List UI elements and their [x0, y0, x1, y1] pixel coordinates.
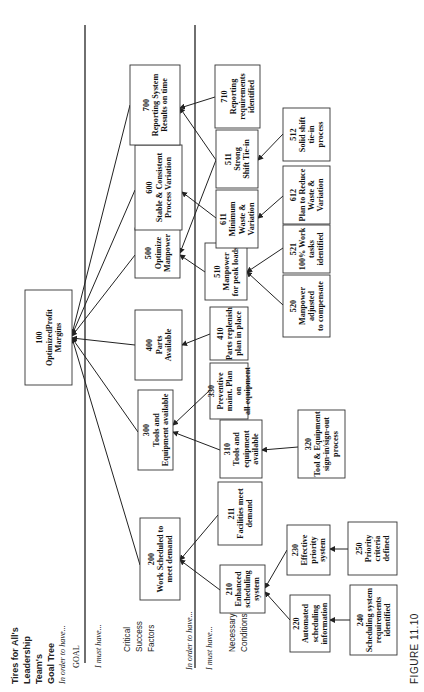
node-label-line: Preventive: [216, 372, 225, 409]
connector-510-to-500: [180, 255, 205, 272]
node-label-line: Reporting System: [151, 74, 160, 137]
node-label-line: criteria: [373, 536, 382, 562]
connector-511-to-700: [180, 108, 216, 160]
node-label-line: demand: [245, 499, 254, 528]
node-label-line: scheduling: [243, 569, 252, 607]
node-label-line: 511: [224, 153, 233, 165]
node-512: 512Solid shifttie-inprocess: [283, 108, 330, 161]
node-label-line: 100% Work: [298, 227, 307, 270]
connector-220-to-210: [265, 592, 290, 620]
connector-512-to-511: [258, 134, 283, 160]
connector-400-to-100: [72, 338, 135, 345]
node-521: 521100% Worktasksidentified: [283, 225, 330, 273]
node-label-line: 250: [355, 542, 364, 554]
i-must-have-2: I must have...: [205, 626, 214, 671]
node-label-line: 612: [289, 189, 298, 201]
node-label-line: information: [320, 602, 329, 644]
node-label-line: maint. Plan: [225, 370, 234, 411]
node-label-line: Enhanced: [234, 571, 243, 606]
node-label-line: to compensate: [316, 281, 325, 331]
node-label-line: 611: [219, 213, 228, 225]
node-label-line: process: [316, 122, 325, 148]
node-label-line: 330: [207, 385, 216, 397]
connector-210-to-200: [180, 560, 220, 590]
node-label-line: Minimum: [228, 201, 237, 236]
node-label-line: sign-in/sign-out: [322, 417, 331, 471]
node-label-line: all equipment: [243, 367, 252, 415]
node-label-line: 200: [147, 553, 156, 565]
node-label-line: Parts: [155, 336, 164, 355]
connector-320-to-310: [262, 447, 298, 450]
goal-label: GOAL: [72, 645, 81, 668]
node-200: 200Work Scheduled tomeet demand: [140, 518, 180, 600]
node-label-line: Automated: [301, 604, 310, 644]
node-300: 300Tools andEquipment available: [138, 390, 173, 470]
connector-521-to-510: [247, 248, 283, 272]
node-label-line: Optimize: [154, 236, 163, 269]
node-label-line: 240: [356, 614, 365, 626]
node-400: 400PartsAvailable: [135, 310, 182, 380]
node-label-line: Tools and: [152, 413, 161, 447]
csf-label-3: Factors: [147, 625, 156, 652]
node-label-line: scheduling: [311, 604, 320, 642]
node-label-line: 512: [289, 128, 298, 140]
connector-310-to-300: [173, 432, 220, 450]
goal-tree-diagram: 100OptimizedProfitMargins200Work Schedul…: [0, 0, 424, 692]
node-710: 710Reportingrequirementsidentified: [215, 65, 260, 128]
node-220: 220Automatedschedulinginformation: [290, 595, 330, 652]
node-label-line: 100: [35, 331, 44, 343]
node-240: 240Scheduling systemrequirementsidentifi…: [350, 585, 397, 655]
node-611: 611MinimumWaste &Variation: [216, 190, 258, 248]
node-label-line: 230: [291, 544, 300, 556]
node-label-line: system: [252, 577, 261, 601]
in-order-to-have-2: In order to have...: [185, 611, 194, 671]
node-label-line: Facilities meet: [236, 488, 245, 539]
node-label-line: identified: [383, 603, 392, 637]
node-211: 211Facilities meetdemand: [218, 482, 262, 545]
node-label-line: plan in place: [234, 311, 243, 356]
node-label-line: priority: [309, 535, 318, 563]
connector-410-to-400: [182, 334, 210, 345]
node-label-line: identified: [316, 232, 325, 266]
connector-211-to-200: [180, 515, 218, 560]
node-label-line: Manpower: [163, 234, 172, 273]
node-label-line: 310: [223, 443, 232, 455]
connector-200-to-100: [72, 338, 140, 565]
node-label-line: 700: [142, 99, 151, 111]
connector-600-to-100: [72, 190, 135, 335]
node-label-line: tie-in: [307, 125, 316, 144]
node-label-line: requirements: [374, 597, 383, 644]
node-label-line: Effective: [300, 534, 309, 565]
node-label-line: tasks: [307, 240, 316, 258]
node-label-line: requirements: [238, 73, 247, 120]
node-label-line: Variation: [247, 202, 256, 235]
i-must-have-1: I must have...: [94, 624, 103, 669]
node-511: 511StrongShift Tie-in: [216, 130, 258, 188]
connector-710-to-700: [180, 97, 215, 108]
connector-230-to-210: [265, 550, 287, 588]
node-label-line: Waste &: [307, 180, 316, 210]
node-label-line: 300: [142, 424, 151, 436]
node-700: 700Reporting SystemResults on time: [130, 65, 180, 145]
node-label-line: Margins: [54, 323, 63, 353]
title-line-3: Team's: [34, 654, 44, 684]
nc-label-1: Necessary: [228, 612, 237, 652]
connector-300-to-100: [72, 338, 138, 432]
node-label-line: Tool & Equipment: [313, 411, 322, 476]
node-label-line: Waste &: [238, 204, 247, 234]
node-label-line: system: [318, 538, 327, 562]
title-line-4: Goal Tree: [46, 643, 56, 684]
node-label-line: identified: [247, 79, 256, 113]
node-label-line: adjusted: [307, 291, 316, 321]
node-label-line: Strong: [233, 146, 242, 170]
node-label-line: Tools and: [232, 432, 241, 466]
node-label-line: Equipment available: [161, 393, 170, 466]
node-label-line: Manpower: [222, 252, 231, 291]
node-320: 320Tool & Equipmentsign-in/sign-outproce…: [298, 410, 345, 478]
goal-tree-figure: 100OptimizedProfitMargins200Work Schedul…: [0, 0, 424, 692]
csf-label-2: Success: [135, 621, 144, 652]
node-label-line: Solid shift: [298, 117, 307, 153]
node-label-line: Available: [164, 328, 173, 361]
node-label-line: available: [251, 433, 260, 465]
node-label-line: 500: [144, 247, 153, 259]
